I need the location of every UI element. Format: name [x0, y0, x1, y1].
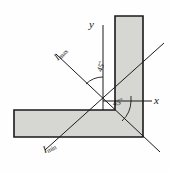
angle-section-figure: y x Imax Imin 45° 45° [0, 0, 169, 173]
angle-label-bottom: 45° [112, 97, 124, 108]
x-axis-label: x [154, 95, 159, 106]
figure-canvas [0, 0, 169, 173]
y-axis-label: y [89, 19, 94, 30]
angle-arc-top [86, 77, 103, 84]
